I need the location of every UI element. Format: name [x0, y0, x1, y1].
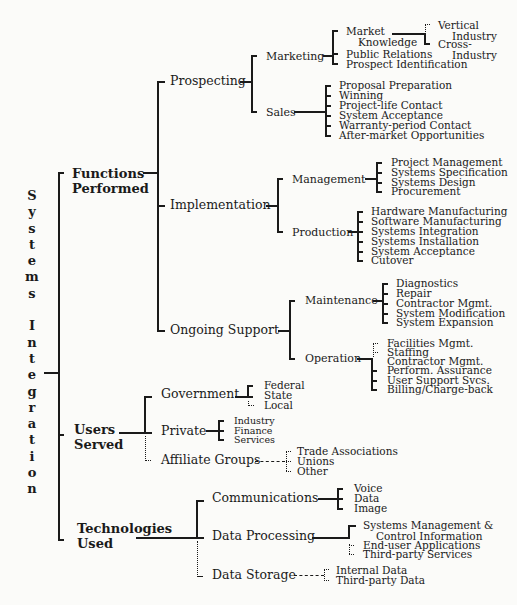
production-label: Production [292, 227, 353, 238]
tick-marketing [251, 55, 257, 57]
government-item: Local [264, 400, 293, 411]
tick-end-user [349, 545, 354, 546]
tick-maint-3 [382, 313, 388, 315]
technologies-used-label: Technologies Used [77, 522, 172, 550]
users-served-label: Users Served [74, 423, 123, 451]
affiliate-groups-label: Affiliate Groups [161, 454, 260, 467]
tick-prospect-id [332, 63, 338, 65]
communications-label: Communications [212, 492, 318, 505]
tick-production [277, 231, 283, 233]
tick-third-party-data [324, 580, 329, 581]
title-letter: t [24, 351, 40, 367]
title-letter: g [24, 384, 40, 400]
tick-government [144, 396, 152, 398]
tick-third-party-services [349, 554, 354, 555]
tick-sales-0 [325, 85, 331, 87]
sales-item: After-market Opportunities [339, 130, 484, 141]
tick-operation [289, 358, 295, 360]
tick-prod-3 [357, 241, 363, 243]
sales-label: Sales [266, 107, 296, 118]
tick-ongoing [157, 330, 165, 332]
communications-connector [318, 498, 338, 500]
title-letter: o [24, 465, 40, 481]
title-letter: y [24, 204, 40, 220]
implementation-spine [277, 178, 279, 233]
sales-connector [294, 111, 326, 113]
tick-mgmt-0 [376, 162, 382, 164]
tick-vertical-industry [425, 24, 430, 25]
operation-spine-dotted [373, 343, 374, 357]
tick-private [144, 432, 152, 434]
title-letter: a [24, 416, 40, 432]
operation-label: Operation [305, 353, 361, 364]
tick-industry [218, 420, 224, 422]
data-processing-connector [312, 537, 350, 539]
tick-mgmt-2 [376, 182, 382, 184]
affiliate-item: Other [297, 466, 328, 477]
tick-maint-4 [382, 322, 388, 324]
tick-maint-1 [382, 293, 388, 295]
title-letter: e [24, 253, 40, 269]
affiliate-connector [255, 461, 285, 462]
title-letter: m [24, 269, 40, 285]
tick-image [337, 508, 343, 510]
operation-item: Billing/Charge-back [387, 384, 493, 395]
tick-maint-0 [382, 283, 388, 285]
tick-data-processing [196, 537, 204, 539]
tick-communications [196, 500, 204, 502]
management-spine [376, 162, 378, 193]
tick-data-storage [197, 576, 203, 577]
data-storage-item: Third-party Data [336, 575, 425, 586]
tick-op-4 [371, 380, 377, 382]
sales-spine [325, 85, 327, 137]
tick-local [248, 401, 254, 406]
government-label: Government [161, 388, 239, 401]
root-title: S y s t e m s I n t e g r a t i o n [24, 188, 40, 498]
spine-tick-functions [58, 172, 64, 174]
maintenance-label: Maintenance [305, 295, 378, 306]
market-knowledge-connector [392, 33, 426, 35]
tech-spine [196, 500, 198, 539]
tick-mgmt-1 [376, 172, 382, 174]
ongoing-support-label: Ongoing Support [170, 324, 279, 337]
technologies-connector [136, 537, 197, 539]
title-letter: i [24, 449, 40, 465]
mk-spine-dotted [425, 24, 426, 32]
main-spine [58, 172, 60, 541]
tick-prod-0 [357, 211, 363, 213]
tick-sales-1 [325, 95, 331, 97]
tick-smci [348, 525, 356, 527]
prospect-identification-label: Prospect Identification [346, 59, 467, 70]
tick-maintenance [289, 300, 295, 302]
functions-connector [143, 172, 158, 174]
tick-federal [247, 385, 253, 387]
tick-sales-5 [325, 135, 331, 137]
root-connector [44, 372, 59, 374]
tick-cross-industry [424, 43, 430, 45]
prospecting-label: Prospecting [170, 75, 246, 88]
tick-op-1 [373, 352, 378, 353]
ongoing-spine [289, 300, 291, 360]
tick-sales-4 [325, 125, 331, 127]
production-spine [357, 211, 359, 262]
tick-mgmt-3 [376, 191, 382, 193]
title-letter: r [24, 400, 40, 416]
operation-spine [371, 358, 373, 391]
tick-sales-2 [325, 105, 331, 107]
private-item: Services [234, 435, 275, 445]
private-label: Private [161, 425, 206, 438]
title-letter: s [24, 221, 40, 237]
title-letter: n [24, 335, 40, 351]
tick-prod-4 [357, 251, 363, 253]
marketing-label: Marketing [266, 51, 324, 62]
data-processing-label: Data Processing [212, 530, 315, 543]
title-letter: t [24, 432, 40, 448]
prospecting-spine [251, 55, 253, 113]
tick-market-knowledge [332, 30, 338, 32]
tick-public-relations [332, 53, 338, 55]
tick-unions [286, 461, 291, 462]
tick-voice [337, 488, 343, 490]
tick-maint-2 [382, 303, 388, 305]
users-spine-dotted [145, 436, 146, 459]
title-gap [24, 302, 40, 318]
